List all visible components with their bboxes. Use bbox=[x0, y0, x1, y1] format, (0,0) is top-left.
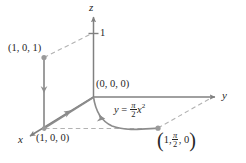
point-label-last-coord: , 0 bbox=[179, 135, 190, 146]
point-label-fraction-denominator: 2 bbox=[172, 139, 178, 149]
point-marker-1-0-0 bbox=[42, 126, 47, 131]
dashed-guide-to-z-one bbox=[44, 34, 92, 58]
point-label-first-coord: 1, bbox=[164, 135, 172, 146]
z-axis-label: z bbox=[89, 2, 93, 13]
equation-fraction: π2 bbox=[130, 101, 136, 119]
point-label-close-paren: ) bbox=[189, 133, 196, 147]
path-segment-diagonal bbox=[44, 98, 93, 129]
point-label-open-paren: ( bbox=[157, 133, 164, 147]
origin-point-label: (0, 0, 0) bbox=[96, 79, 129, 90]
point-label-1-0-1: (1, 0, 1) bbox=[8, 43, 41, 54]
y-axis-label: y bbox=[222, 90, 227, 101]
equation-fraction-numerator: π bbox=[130, 101, 136, 110]
x-axis-label: x bbox=[18, 134, 23, 145]
dashed-guide-to-y-axis bbox=[158, 98, 211, 128]
figure-3d-coordinate-diagram: z 1 y x (0, 0, 0) (1, 0, 1) (1, 0, 0) (1… bbox=[0, 0, 246, 163]
equation-fraction-denominator: 2 bbox=[130, 109, 136, 119]
point-label-fraction-numerator: π bbox=[172, 131, 178, 140]
point-label-fraction: π2 bbox=[172, 131, 178, 149]
point-label-1-0-0: (1, 0, 0) bbox=[36, 133, 69, 144]
z-tick-one-label: 1 bbox=[100, 28, 105, 39]
point-label-1-pi-over-2-0: (1,π2, 0) bbox=[157, 131, 196, 149]
equation-equals: = bbox=[121, 104, 127, 115]
curve-equation-label: y = π2x2 bbox=[114, 101, 145, 119]
equation-lhs: y bbox=[114, 104, 119, 115]
point-marker-1-0-1 bbox=[41, 55, 46, 60]
equation-exponent: 2 bbox=[142, 102, 146, 110]
path-segment-vertical bbox=[41, 58, 48, 128]
